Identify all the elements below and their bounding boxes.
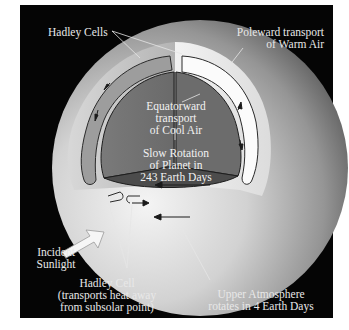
label-incident-sunlight: Incident Sunlight xyxy=(26,246,86,270)
label-poleward-transport: Poleward transport of Warm Air xyxy=(232,26,324,50)
label-slow-rotation: Slow Rotation of Planet in 243 Earth Day… xyxy=(130,147,222,183)
label-upper-atmosphere: Upper Atmosphere rotates in 4 Earth Days xyxy=(196,288,326,312)
label-equatorward-transport: Equatorward transport of Cool Air xyxy=(130,100,222,136)
label-hadley-cell: Hadley Cell (transports heat away from s… xyxy=(52,277,162,313)
label-hadley-cells: Hadley Cells xyxy=(48,26,108,38)
